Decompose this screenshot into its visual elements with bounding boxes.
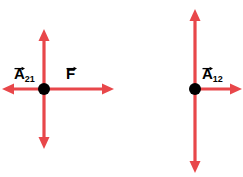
arrowhead-right-icon xyxy=(102,84,114,95)
vector-arrow-icon xyxy=(66,65,77,71)
arrowhead-up-icon xyxy=(190,9,201,21)
label-a12: A12 xyxy=(202,66,222,84)
vector-arrow-icon xyxy=(202,65,213,71)
arrowhead-right-icon xyxy=(230,84,242,95)
vector-arrow-icon xyxy=(14,65,25,71)
label-a21: A21 xyxy=(14,66,34,84)
arrowhead-left-icon xyxy=(2,84,14,95)
point-mass-right xyxy=(189,83,201,95)
arrowhead-down-icon xyxy=(190,161,201,173)
label-f: F xyxy=(66,66,75,84)
arrowhead-up-icon xyxy=(39,29,50,41)
point-mass-left xyxy=(38,83,50,95)
arrowhead-down-icon xyxy=(39,137,50,149)
label-a21-subscript: 21 xyxy=(25,74,35,84)
right-diagram xyxy=(189,9,242,173)
vector-diagram-canvas xyxy=(0,0,243,177)
label-a12-subscript: 12 xyxy=(213,74,223,84)
left-diagram xyxy=(2,29,114,149)
